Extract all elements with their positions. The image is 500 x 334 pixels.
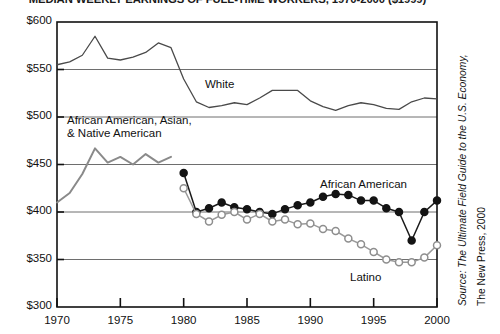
series-marker-2 xyxy=(345,191,352,198)
series-line-0 xyxy=(57,36,437,110)
series-marker-2 xyxy=(269,210,276,217)
series-marker-3 xyxy=(218,211,225,218)
y-tick-label: $450 xyxy=(26,157,52,169)
x-tick-label: 1985 xyxy=(234,314,260,326)
series-marker-2 xyxy=(307,199,314,206)
series-label: White xyxy=(205,78,234,91)
y-tick-label: $300 xyxy=(26,299,52,311)
series-marker-2 xyxy=(218,199,225,206)
series-marker-2 xyxy=(180,170,187,177)
series-marker-2 xyxy=(370,197,377,204)
series-marker-2 xyxy=(294,202,301,209)
series-label-line: & Native American xyxy=(67,127,192,140)
series-marker-2 xyxy=(434,197,441,204)
x-tick-label: 1995 xyxy=(361,314,387,326)
source-note-line2: The New Press, 2000 xyxy=(476,207,487,306)
y-tick-label: $550 xyxy=(26,62,52,74)
x-tick-label: 1980 xyxy=(171,314,197,326)
y-tick-label: $500 xyxy=(26,109,52,121)
series-label-line: White xyxy=(205,78,234,91)
series-marker-2 xyxy=(332,190,339,197)
series-marker-3 xyxy=(383,256,390,263)
series-marker-3 xyxy=(358,241,365,248)
series-marker-3 xyxy=(421,254,428,261)
plot-area xyxy=(0,0,500,334)
series-marker-2 xyxy=(244,206,251,213)
chart-figure: MEDIAN WEEKLY EARNINGS OF FULL-TIME WORK… xyxy=(0,0,500,334)
series-marker-3 xyxy=(345,235,352,242)
series-marker-3 xyxy=(396,259,403,266)
x-tick-label: 1990 xyxy=(298,314,324,326)
x-tick-label: 2000 xyxy=(424,314,450,326)
series-marker-3 xyxy=(231,209,238,216)
series-marker-2 xyxy=(408,237,415,244)
series-label-line: African American xyxy=(320,178,407,191)
series-marker-3 xyxy=(269,218,276,225)
series-marker-3 xyxy=(294,221,301,228)
series-marker-2 xyxy=(358,197,365,204)
series-label: Latino xyxy=(350,271,381,284)
x-tick-label: 1975 xyxy=(108,314,134,326)
series-marker-3 xyxy=(193,210,200,217)
y-axis-tick-labels: $300$350$400$450$500$550$600 xyxy=(0,0,52,334)
series-marker-2 xyxy=(383,205,390,212)
series-marker-2 xyxy=(396,209,403,216)
series-marker-2 xyxy=(421,209,428,216)
series-label-line: African American, Asian, xyxy=(67,114,192,127)
series-label-line: Latino xyxy=(350,271,381,284)
series-line-1 xyxy=(57,148,171,202)
series-marker-3 xyxy=(307,220,314,227)
series-marker-3 xyxy=(434,242,441,249)
source-note-line1: Source: The Ultimate Field Guide to the … xyxy=(457,54,468,306)
chart-title: MEDIAN WEEKLY EARNINGS OF FULL-TIME WORK… xyxy=(0,0,455,5)
x-tick-label: 1970 xyxy=(44,314,70,326)
series-marker-3 xyxy=(244,216,251,223)
series-marker-3 xyxy=(282,216,289,223)
series-label: African American, Asian,& Native America… xyxy=(67,114,192,140)
y-tick-label: $400 xyxy=(26,204,52,216)
series-marker-3 xyxy=(206,218,213,225)
series-marker-3 xyxy=(370,248,377,255)
y-tick-label: $350 xyxy=(26,252,52,264)
series-marker-3 xyxy=(180,185,187,192)
series-marker-3 xyxy=(408,259,415,266)
y-tick-label: $600 xyxy=(26,14,52,26)
series-marker-3 xyxy=(320,226,327,233)
series-marker-3 xyxy=(256,210,263,217)
series-marker-2 xyxy=(206,205,213,212)
series-marker-2 xyxy=(320,193,327,200)
series-label: African American xyxy=(320,178,407,191)
series-marker-2 xyxy=(282,206,289,213)
series-marker-3 xyxy=(332,228,339,235)
